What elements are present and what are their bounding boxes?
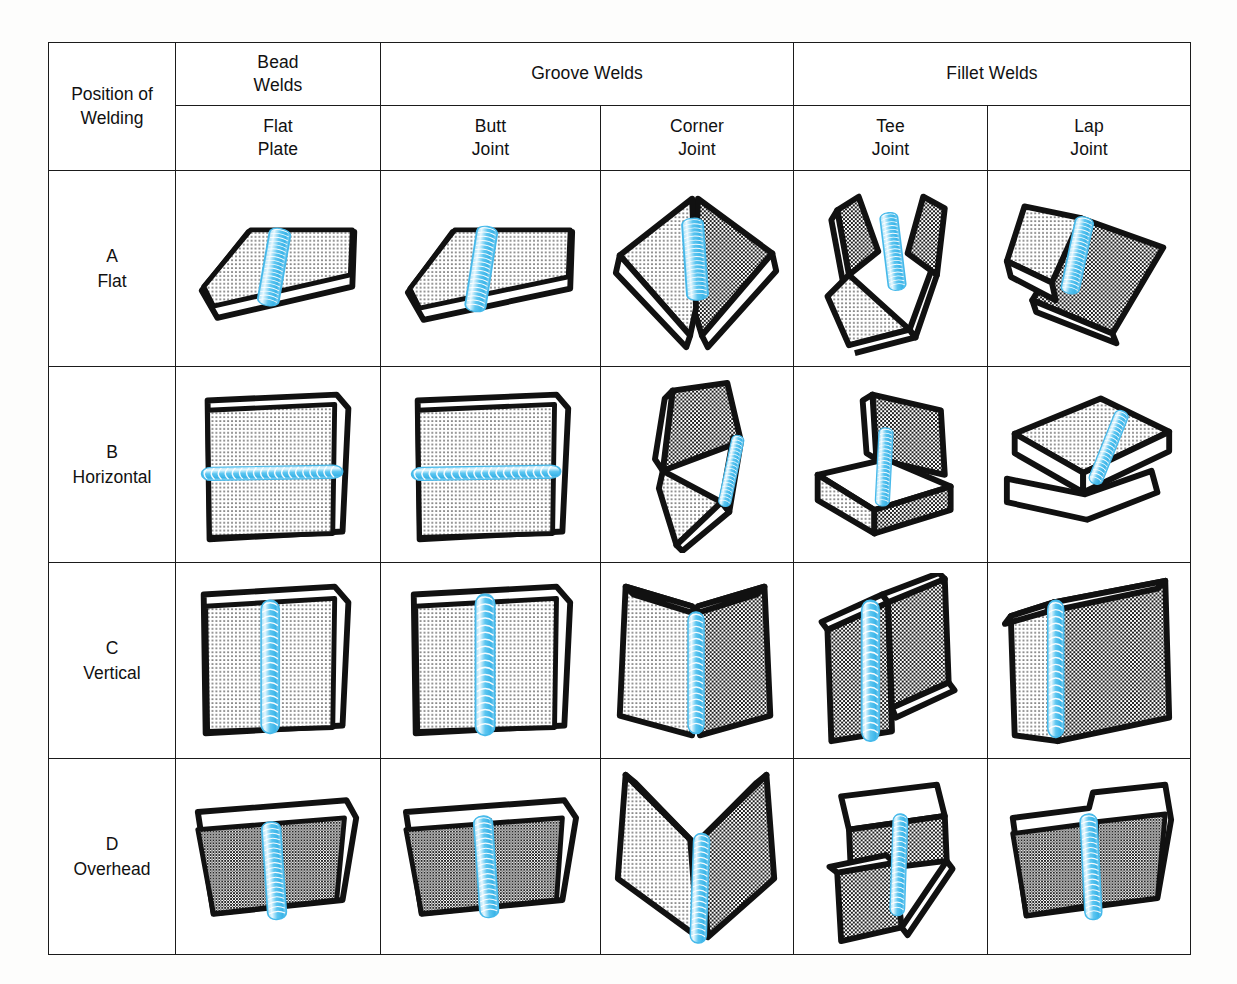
group-header-fillet-welds: Fillet Welds (794, 43, 1191, 106)
corner-joint-groove-weld-horizontal-position-illustration (604, 377, 790, 553)
row-header-vertical: C Vertical (49, 563, 176, 759)
column-header-butt-joint-line2: Joint (472, 139, 509, 159)
lap-joint-fillet-weld-overhead-position-illustration (991, 769, 1187, 945)
column-header-flat-plate-line1: Flat (263, 116, 293, 136)
butt-joint-groove-weld-overhead-position-illustration (388, 769, 594, 945)
flat-plate-bead-weld-vertical-position-illustration (180, 573, 376, 749)
cell-flat-lap-joint (988, 171, 1191, 367)
table-head: Position of Welding Bead Welds Groove We… (49, 43, 1191, 171)
cell-vertical-tee-joint (794, 563, 988, 759)
cell-vertical-butt-joint (381, 563, 601, 759)
column-header-tee-joint-line1: Tee (876, 116, 905, 136)
tee-joint-fillet-weld-horizontal-position-illustration (798, 377, 984, 553)
cell-horizontal-corner-joint (601, 367, 794, 563)
cell-flat-corner-joint (601, 171, 794, 367)
cell-horizontal-butt-joint (381, 367, 601, 563)
column-header-corner-joint-line2: Joint (678, 139, 715, 159)
page-canvas: Position of Welding Bead Welds Groove We… (0, 0, 1237, 984)
cell-horizontal-flat-plate (176, 367, 381, 563)
corner-joint-groove-weld-vertical-position-illustration (604, 573, 790, 749)
column-header-tee-joint: Tee Joint (794, 106, 988, 171)
corner-header-line1: Position of (71, 84, 153, 104)
lap-joint-fillet-weld-flat-position-illustration (991, 181, 1187, 357)
flat-plate-bead-weld-horizontal-position-illustration (180, 377, 376, 553)
row-header-overhead-name: Overhead (74, 859, 151, 879)
column-header-flat-plate: Flat Plate (176, 106, 381, 171)
cell-overhead-lap-joint (988, 759, 1191, 955)
column-header-butt-joint-line1: Butt (475, 116, 507, 136)
cell-overhead-corner-joint (601, 759, 794, 955)
flat-plate-bead-weld-flat-position-illustration (180, 181, 376, 357)
cell-overhead-butt-joint (381, 759, 601, 955)
table-row: B Horizontal (49, 367, 1191, 563)
row-header-vertical-letter: C (49, 636, 175, 661)
column-header-row: Flat Plate Butt Joint Corner Joint Tee J… (49, 106, 1191, 171)
row-header-horizontal-letter: B (49, 440, 175, 465)
row-header-horizontal-name: Horizontal (73, 467, 152, 487)
table-row: D Overhead (49, 759, 1191, 955)
cell-horizontal-tee-joint (794, 367, 988, 563)
cell-vertical-lap-joint (988, 563, 1191, 759)
corner-joint-groove-weld-flat-position-illustration (604, 181, 790, 357)
cell-overhead-flat-plate (176, 759, 381, 955)
column-header-butt-joint: Butt Joint (381, 106, 601, 171)
row-header-overhead-letter: D (49, 832, 175, 857)
column-header-tee-joint-line2: Joint (872, 139, 909, 159)
cell-flat-flat-plate (176, 171, 381, 367)
row-header-horizontal: B Horizontal (49, 367, 176, 563)
tee-joint-fillet-weld-flat-position-illustration (798, 181, 984, 357)
group-header-groove-welds-label: Groove Welds (531, 63, 643, 83)
row-header-flat-name: Flat (97, 271, 126, 291)
butt-joint-groove-weld-flat-position-illustration (388, 181, 594, 357)
cell-overhead-tee-joint (794, 759, 988, 955)
butt-joint-groove-weld-horizontal-position-illustration (388, 377, 594, 553)
group-header-row: Position of Welding Bead Welds Groove We… (49, 43, 1191, 106)
column-header-flat-plate-line2: Plate (258, 139, 298, 159)
butt-joint-groove-weld-vertical-position-illustration (388, 573, 594, 749)
welding-positions-table: Position of Welding Bead Welds Groove We… (48, 42, 1191, 955)
row-header-overhead: D Overhead (49, 759, 176, 955)
group-header-bead-welds: Bead Welds (176, 43, 381, 106)
column-header-corner-joint-line1: Corner (670, 116, 724, 136)
tee-joint-fillet-weld-vertical-position-illustration (798, 573, 984, 749)
table-row: A Flat (49, 171, 1191, 367)
cell-horizontal-lap-joint (988, 367, 1191, 563)
group-header-fillet-welds-label: Fillet Welds (946, 63, 1037, 83)
cell-vertical-flat-plate (176, 563, 381, 759)
table-body: A Flat (49, 171, 1191, 955)
group-header-groove-welds: Groove Welds (381, 43, 794, 106)
group-header-bead-welds-line1: Bead (257, 52, 298, 72)
row-header-flat-letter: A (49, 244, 175, 269)
table-row: C Vertical (49, 563, 1191, 759)
cell-flat-tee-joint (794, 171, 988, 367)
tee-joint-fillet-weld-overhead-position-illustration (798, 769, 984, 945)
row-header-flat: A Flat (49, 171, 176, 367)
cell-flat-butt-joint (381, 171, 601, 367)
corner-header-line2: Welding (81, 108, 144, 128)
row-header-vertical-name: Vertical (83, 663, 140, 683)
corner-header-cell: Position of Welding (49, 43, 176, 171)
flat-plate-bead-weld-overhead-position-illustration (180, 769, 376, 945)
column-header-corner-joint: Corner Joint (601, 106, 794, 171)
column-header-lap-joint-line1: Lap (1074, 116, 1104, 136)
column-header-lap-joint-line2: Joint (1070, 139, 1107, 159)
column-header-lap-joint: Lap Joint (988, 106, 1191, 171)
group-header-bead-welds-line2: Welds (254, 75, 303, 95)
lap-joint-fillet-weld-horizontal-position-illustration (991, 377, 1187, 553)
cell-vertical-corner-joint (601, 563, 794, 759)
lap-joint-fillet-weld-vertical-position-illustration (991, 573, 1187, 749)
corner-joint-groove-weld-overhead-position-illustration (604, 769, 790, 945)
